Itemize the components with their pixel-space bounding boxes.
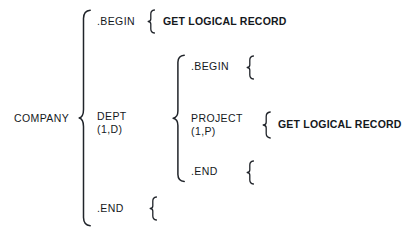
- company-brace: [78, 9, 92, 227]
- node-level2-project-label: PROJECT: [191, 112, 243, 125]
- get-logical-record-2-label: GET LOGICAL RECORD: [278, 118, 402, 131]
- begin2-brace: [246, 55, 255, 80]
- node-level2-project-occurrence: (1,P): [191, 125, 216, 138]
- structure-diagram: COMPANY .BEGIN GET LOGICAL RECORD DEPT (…: [0, 0, 409, 235]
- node-company-label: COMPANY: [14, 112, 69, 125]
- project-brace: [262, 111, 272, 139]
- node-level2-end-label: .END: [191, 165, 218, 178]
- node-level1-end-label: .END: [97, 202, 124, 215]
- node-level2-begin-label: .BEGIN: [191, 60, 229, 73]
- node-level1-begin-label: .BEGIN: [97, 15, 135, 28]
- node-level1-dept-occurrence: (1,D): [97, 123, 122, 136]
- end2-brace: [246, 160, 255, 185]
- get-logical-record-1-label: GET LOGICAL RECORD: [163, 15, 287, 28]
- dept-brace: [172, 54, 186, 184]
- begin1-brace: [147, 9, 156, 34]
- end1-brace: [149, 196, 158, 221]
- node-level1-dept-label: DEPT: [97, 110, 127, 123]
